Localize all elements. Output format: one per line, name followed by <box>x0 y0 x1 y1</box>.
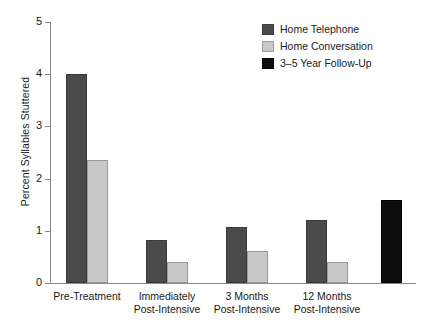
y-tick-label: 0 <box>12 277 42 288</box>
legend-label-home-conversation: Home Conversation <box>280 40 373 53</box>
bar-home-telephone <box>66 74 87 283</box>
bar-home-conversation <box>167 262 188 283</box>
x-axis-line <box>50 283 416 284</box>
bar-home-conversation <box>87 160 108 283</box>
legend-swatch-home-conversation <box>262 41 274 52</box>
bar-home-conversation <box>247 251 268 283</box>
y-tick-mark <box>45 179 50 180</box>
legend-item: 3–5 Year Follow-Up <box>262 56 373 71</box>
bar-home-telephone <box>146 240 167 283</box>
y-tick-mark <box>45 74 50 75</box>
bar-home-telephone <box>226 227 247 283</box>
bar-followup <box>381 200 402 283</box>
x-tick-label: 12 Months Post-Intensive <box>277 290 377 316</box>
y-tick-label: 2 <box>12 173 42 184</box>
legend-item: Home Conversation <box>262 39 373 54</box>
y-tick-label: 3 <box>12 120 42 131</box>
y-tick-mark <box>45 231 50 232</box>
legend-label-home-telephone: Home Telephone <box>280 23 359 36</box>
y-tick-mark <box>45 22 50 23</box>
y-tick-mark <box>45 126 50 127</box>
bar-home-conversation <box>327 262 348 283</box>
bar-chart: Percent Syllables Stuttered 543210 Pre-T… <box>0 0 422 327</box>
bar-home-telephone <box>306 220 327 283</box>
y-axis-title: Percent Syllables Stuttered <box>16 0 34 283</box>
legend-label-followup: 3–5 Year Follow-Up <box>280 57 372 70</box>
y-tick-label: 1 <box>12 225 42 236</box>
legend-swatch-followup <box>262 58 274 69</box>
legend: Home Telephone Home Conversation 3–5 Yea… <box>262 22 373 73</box>
legend-item: Home Telephone <box>262 22 373 37</box>
y-tick-label: 5 <box>12 16 42 27</box>
y-axis-line <box>50 22 51 283</box>
y-tick-label: 4 <box>12 68 42 79</box>
legend-swatch-home-telephone <box>262 24 274 35</box>
